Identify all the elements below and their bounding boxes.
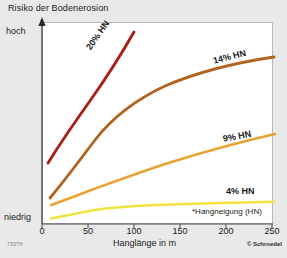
curve-4-percent-hn bbox=[51, 202, 274, 219]
y-axis-arrow-icon bbox=[38, 17, 45, 26]
series-label-4-percent-hn: 4% HN bbox=[226, 186, 255, 196]
x-tick-marks bbox=[42, 224, 272, 228]
chart-figure: Risiko der Bodenerosion hoch niedrig 0 5… bbox=[0, 0, 287, 258]
curve-14-percent-hn bbox=[50, 57, 274, 198]
